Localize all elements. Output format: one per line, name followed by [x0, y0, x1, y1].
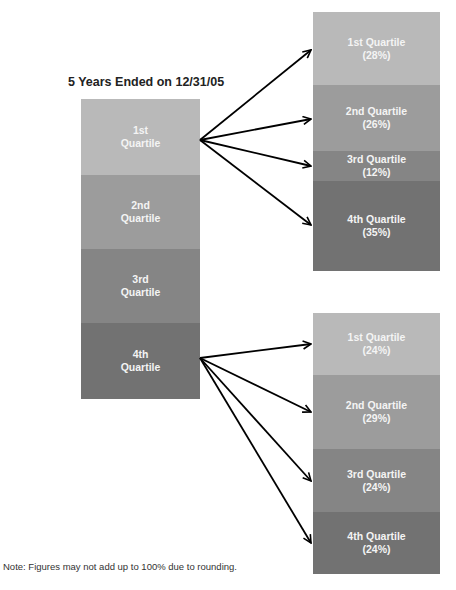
flow-arrows	[0, 0, 456, 590]
arrow-icon	[200, 50, 311, 140]
arrow-icon	[200, 344, 311, 358]
arrow-group-from-first-quartile	[200, 50, 311, 225]
rounding-note: Note: Figures may not add up to 100% due…	[3, 561, 237, 572]
arrow-icon	[200, 119, 311, 140]
arrow-group-from-fourth-quartile	[200, 344, 311, 543]
arrow-icon	[200, 358, 311, 481]
